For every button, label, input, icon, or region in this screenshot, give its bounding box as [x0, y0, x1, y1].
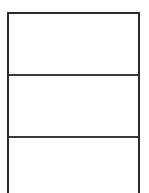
- table-row[interactable]: [9, 14, 138, 74]
- table-cell[interactable]: [9, 76, 138, 136]
- table-row[interactable]: [9, 138, 138, 193]
- table-cell[interactable]: [9, 138, 138, 193]
- screenshot-canvas: [0, 0, 149, 193]
- table-cell[interactable]: [9, 14, 138, 74]
- table-frame: [7, 12, 140, 193]
- table-row[interactable]: [9, 76, 138, 136]
